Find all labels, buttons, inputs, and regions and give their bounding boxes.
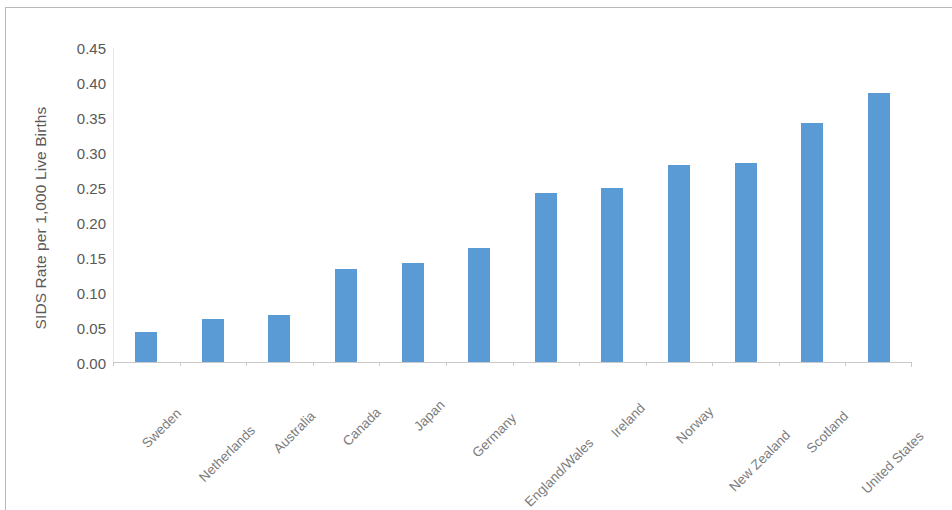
bar-scotland [801, 123, 823, 362]
y-axis-title: SIDS Rate per 1,000 Live Births [28, 53, 54, 383]
x-axis-label-slot: Australia [246, 366, 313, 506]
y-axis-tick-label: 0.20 [58, 216, 106, 231]
bar-england-wales [535, 193, 557, 362]
bar-slot [579, 43, 646, 362]
bar-slot [646, 43, 713, 362]
bar-slot [313, 43, 380, 362]
x-axis-label-slot: England/Wales [513, 366, 580, 506]
x-axis-label-slot: Sweden [113, 366, 180, 506]
bar-slot [113, 43, 180, 362]
x-axis-category-label: United States [916, 372, 952, 439]
x-axis-label-slot: New Zealand [712, 366, 779, 506]
bar-slot [513, 43, 580, 362]
bar-slot [712, 43, 779, 362]
x-axis-label-slot: Netherlands [180, 366, 247, 506]
x-axis-label-slot: Scotland [779, 366, 846, 506]
y-axis-tick-label: 0.15 [58, 251, 106, 266]
bar-sweden [135, 332, 157, 362]
sids-rate-bar-chart: SIDS Rate per 1,000 Live Births 0.450.40… [0, 0, 952, 510]
bar-ireland [601, 188, 623, 362]
y-axis-tick-label: 0.05 [58, 321, 106, 336]
y-axis-tick-label-group: 0.450.400.350.300.250.200.150.100.050.00 [58, 0, 106, 510]
y-axis-tick-label: 0.25 [58, 181, 106, 196]
y-axis-tick-label: 0.35 [58, 111, 106, 126]
bar-japan [402, 263, 424, 362]
x-axis-label-slot: United States [845, 366, 912, 506]
bar-germany [468, 248, 490, 362]
x-axis-label-slot: Ireland [579, 366, 646, 506]
bar-slot [379, 43, 446, 362]
bar-slot [779, 43, 846, 362]
bar-australia [268, 315, 290, 362]
bar-canada [335, 269, 357, 362]
figure-frame-left-border [5, 7, 6, 510]
y-axis-tick-label: 0.45 [58, 41, 106, 56]
y-axis-tick-label: 0.00 [58, 356, 106, 371]
y-axis-tick-label: 0.40 [58, 76, 106, 91]
y-axis-tick-label: 0.30 [58, 146, 106, 161]
x-axis-label-slot: Japan [379, 366, 446, 506]
bar-netherlands [202, 319, 224, 362]
figure-frame-top-border [5, 7, 952, 8]
bar-new-zealand [735, 163, 757, 363]
x-axis-label-slot: Germany [446, 366, 513, 506]
x-axis-category-label-group: SwedenNetherlandsAustraliaCanadaJapanGer… [113, 366, 912, 506]
bar-slot [180, 43, 247, 362]
x-axis-label-slot: Norway [646, 366, 713, 506]
x-axis-label-slot: Canada [313, 366, 380, 506]
bar-slot [446, 43, 513, 362]
bar-slot [246, 43, 313, 362]
plot-area [113, 43, 912, 363]
bar-united-states [868, 93, 890, 362]
y-axis-tick-label: 0.10 [58, 286, 106, 301]
bar-norway [668, 165, 690, 362]
bar-slot [845, 43, 912, 362]
